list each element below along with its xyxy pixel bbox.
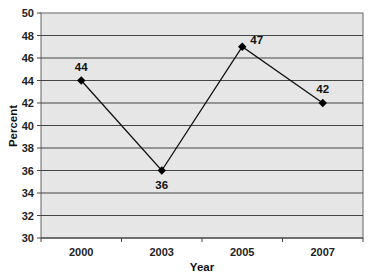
y-tick-label: 50 [22, 7, 34, 19]
x-tick-label: 2003 [150, 246, 174, 258]
y-tick-label: 34 [22, 187, 35, 199]
data-label: 47 [250, 34, 263, 46]
y-tick-label: 30 [22, 232, 34, 244]
y-axis-ticks: 3032343638404244464850 [22, 7, 41, 244]
y-tick-label: 48 [22, 30, 34, 42]
y-tick-label: 44 [22, 75, 35, 87]
line-chart: 3032343638404244464850 2000200320052007 … [0, 0, 371, 277]
x-tick-label: 2007 [311, 246, 335, 258]
y-tick-label: 46 [22, 52, 34, 64]
y-tick-label: 40 [22, 120, 34, 132]
data-label: 42 [316, 83, 329, 95]
y-tick-label: 42 [22, 97, 34, 109]
y-tick-label: 32 [22, 210, 34, 222]
data-label: 36 [155, 179, 168, 191]
data-label: 44 [75, 61, 88, 73]
x-axis-ticks: 2000200320052007 [41, 238, 363, 258]
x-axis-title: Year [190, 261, 215, 273]
x-tick-label: 2000 [69, 246, 93, 258]
y-tick-label: 36 [22, 165, 34, 177]
y-tick-label: 38 [22, 142, 34, 154]
x-tick-label: 2005 [230, 246, 254, 258]
y-axis-title: Percent [7, 105, 19, 147]
